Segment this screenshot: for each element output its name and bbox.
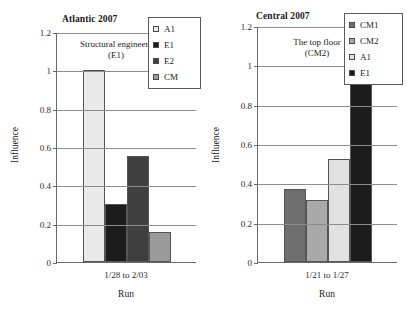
legend-item-e2[interactable]: E2: [153, 53, 195, 69]
chart-title: Central 2007: [256, 11, 310, 21]
bar-e1: [105, 204, 127, 262]
legend-item-a1[interactable]: A1: [153, 21, 195, 37]
gridline: [258, 145, 397, 146]
legend-swatch-icon: [349, 38, 355, 44]
gridline: [57, 110, 196, 111]
legend-label: CM2: [360, 36, 379, 46]
y-axis-tick: [53, 186, 57, 187]
y-axis-tick: [53, 71, 57, 72]
x-axis-label: Run: [56, 289, 196, 299]
gridline: [57, 225, 196, 226]
bar-cm1: [284, 189, 306, 262]
legend-swatch-icon: [349, 70, 355, 76]
y-axis-tick-label: 0.4: [40, 182, 51, 191]
y-axis-tick: [53, 225, 57, 226]
x-category-label: 1/28 to 2/03: [56, 270, 196, 280]
y-axis-tick-label: 0.4: [241, 180, 252, 189]
y-axis-tick-label: 1.2: [241, 23, 252, 32]
legend-item-a1[interactable]: A1: [349, 49, 397, 65]
two-panel-bar-chart-figure: Atlantic 2007 Influence 00.20.40.60.811.…: [0, 0, 407, 313]
y-axis-tick-label: 0.2: [241, 219, 252, 228]
y-axis-tick: [53, 110, 57, 111]
y-axis-tick-label: 0: [47, 259, 52, 268]
legend-label: A1: [164, 24, 175, 34]
bar-e2: [127, 156, 149, 262]
y-axis-label: Influence: [211, 115, 221, 175]
chart-panel-atlantic-2007: Atlantic 2007 Influence 00.20.40.60.811.…: [0, 0, 203, 313]
legend-item-cm[interactable]: CM: [153, 69, 195, 85]
bar-a1: [83, 70, 105, 262]
gridline: [57, 148, 196, 149]
y-axis-tick-label: 0.8: [40, 105, 51, 114]
y-axis-tick-label: 0: [248, 259, 253, 268]
legend-swatch-icon: [349, 22, 355, 28]
chart-title: Atlantic 2007: [62, 14, 117, 24]
gridline: [57, 186, 196, 187]
y-axis-tick: [254, 145, 258, 146]
legend-swatch-icon: [153, 26, 159, 32]
legend-swatch-icon: [153, 42, 159, 48]
y-axis-tick-label: 0.8: [241, 101, 252, 110]
gridline: [258, 224, 397, 225]
x-axis-label: Run: [257, 289, 397, 299]
legend-item-cm1[interactable]: CM1: [349, 17, 397, 33]
legend-label: E2: [164, 56, 174, 66]
bar-cm2: [306, 200, 328, 262]
y-axis-tick: [254, 27, 258, 28]
legend-label: E1: [360, 68, 370, 78]
legend-label: CM: [164, 72, 178, 82]
gridline: [258, 184, 397, 185]
y-axis-tick: [254, 263, 258, 264]
y-axis-tick: [254, 224, 258, 225]
y-axis-tick-label: 1.2: [40, 29, 51, 38]
y-axis-tick-label: 0.6: [40, 144, 51, 153]
y-axis-tick-label: 0.2: [40, 220, 51, 229]
gridline: [258, 106, 397, 107]
x-category-label: 1/21 to 1/27: [257, 270, 397, 280]
legend-swatch-icon: [349, 54, 355, 60]
legend-label: A1: [360, 52, 371, 62]
legend-label: E1: [164, 40, 174, 50]
y-axis-tick: [254, 184, 258, 185]
y-axis-tick-label: 0.6: [241, 141, 252, 150]
bar-cm: [149, 232, 171, 262]
y-axis-tick-label: 1: [47, 67, 52, 76]
legend: A1E1E2CM: [148, 17, 201, 89]
bar-e1: [350, 65, 372, 262]
legend-swatch-icon: [153, 74, 159, 80]
chart-panel-central-2007: Central 2007 Influence 00.20.40.60.811.2…: [204, 0, 407, 313]
y-axis-label: Influence: [10, 115, 20, 175]
y-axis-tick: [53, 263, 57, 264]
legend-item-e1[interactable]: E1: [153, 37, 195, 53]
legend-swatch-icon: [153, 58, 159, 64]
legend: CM1CM2A1E1: [344, 13, 403, 85]
y-axis-tick: [53, 33, 57, 34]
legend-item-cm2[interactable]: CM2: [349, 33, 397, 49]
y-axis-tick: [254, 106, 258, 107]
legend-item-e1[interactable]: E1: [349, 65, 397, 81]
y-axis-tick-label: 1: [248, 62, 253, 71]
y-axis-tick: [53, 148, 57, 149]
y-axis-tick: [254, 66, 258, 67]
bar-a1: [328, 159, 350, 262]
legend-label: CM1: [360, 20, 379, 30]
